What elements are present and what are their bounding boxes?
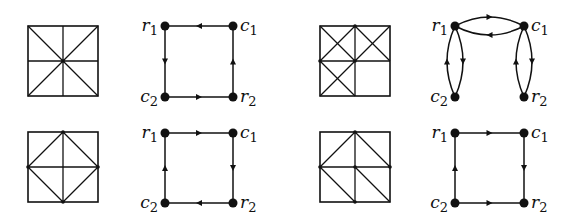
- vertex-dot: [353, 165, 357, 169]
- grid-line: [320, 132, 355, 167]
- grid-line: [320, 167, 355, 202]
- arrowhead-icon: [513, 59, 519, 65]
- directed-graph: r1c1c2r2: [430, 14, 549, 109]
- node-r1: [451, 22, 460, 31]
- grid-line: [355, 167, 390, 202]
- node-c2: [451, 199, 460, 208]
- node-label-r2: r2: [531, 192, 547, 215]
- node-label-c1: c1: [531, 15, 549, 38]
- node-r2: [520, 93, 529, 102]
- node-label-r2: r2: [240, 86, 256, 109]
- vertex-dot: [353, 130, 357, 134]
- grid-line: [63, 132, 98, 167]
- arrowhead-icon: [487, 32, 493, 38]
- arrowhead-icon: [162, 59, 168, 65]
- panel-top-left: r1c1c2r2: [28, 15, 258, 109]
- directed-graph: r1c1c2r2: [140, 122, 258, 215]
- node-c2: [161, 93, 170, 102]
- node-label-r1: r1: [142, 122, 158, 145]
- panel-bottom-left: r1c1c2r2: [26, 122, 258, 215]
- arrowhead-icon: [230, 59, 236, 65]
- arrowhead-icon: [196, 130, 202, 136]
- node-c1: [520, 129, 529, 138]
- arrowhead-icon: [460, 59, 466, 65]
- arrowhead-icon: [452, 165, 458, 171]
- node-label-c2: c2: [430, 86, 448, 109]
- vertex-dot: [353, 24, 357, 28]
- node-r2: [229, 93, 238, 102]
- diagram-figure: r1c1c2r2r1c1c2r2r1c1c2r2r1c1c2r2: [0, 0, 572, 222]
- triangulated-square: [318, 130, 392, 204]
- vertex-dot: [61, 200, 65, 204]
- node-label-r1: r1: [432, 122, 448, 145]
- grid-line: [28, 132, 63, 167]
- arrowhead-icon: [162, 165, 168, 171]
- node-c1: [520, 22, 529, 31]
- node-r1: [161, 129, 170, 138]
- grid-line: [355, 132, 390, 167]
- arrowhead-icon: [487, 130, 493, 136]
- node-label-c1: c1: [240, 122, 258, 145]
- triangulated-square: [318, 24, 390, 96]
- vertex-dot: [26, 165, 30, 169]
- node-label-r2: r2: [240, 192, 256, 215]
- triangulated-square: [28, 26, 98, 96]
- node-c2: [451, 93, 460, 102]
- node-label-r2: r2: [531, 86, 547, 109]
- node-label-c1: c1: [240, 15, 258, 38]
- arrowhead-icon: [529, 59, 535, 65]
- arrowhead-icon: [487, 200, 493, 206]
- panel-bottom-right: r1c1c2r2: [318, 122, 549, 215]
- node-r1: [451, 129, 460, 138]
- node-c1: [229, 129, 238, 138]
- node-c1: [229, 22, 238, 31]
- arrowhead-icon: [230, 165, 236, 171]
- figure-canvas: r1c1c2r2r1c1c2r2r1c1c2r2r1c1c2r2: [0, 0, 572, 222]
- arrowhead-icon: [196, 94, 202, 100]
- vertex-dot: [353, 59, 357, 63]
- node-r2: [520, 199, 529, 208]
- node-label-r1: r1: [142, 15, 158, 38]
- arrowhead-icon: [196, 200, 202, 206]
- directed-graph: r1c1c2r2: [430, 122, 549, 215]
- vertex-dot: [318, 59, 322, 63]
- arrowhead-icon: [196, 23, 202, 29]
- arrowhead-icon: [487, 14, 493, 20]
- vertex-dot: [388, 165, 392, 169]
- arrowhead-icon: [444, 59, 450, 65]
- node-label-c2: c2: [140, 192, 158, 215]
- arrowhead-icon: [521, 165, 527, 171]
- triangulated-square: [26, 130, 100, 204]
- node-label-c1: c1: [531, 122, 549, 145]
- node-label-c2: c2: [430, 192, 448, 215]
- node-label-c2: c2: [140, 86, 158, 109]
- panel-top-right: r1c1c2r2: [318, 14, 549, 109]
- grid-line: [63, 167, 98, 202]
- vertex-dot: [61, 130, 65, 134]
- vertex-dot: [61, 59, 65, 63]
- node-label-r1: r1: [432, 15, 448, 38]
- directed-graph: r1c1c2r2: [140, 15, 258, 109]
- node-r2: [229, 199, 238, 208]
- node-r1: [161, 22, 170, 31]
- vertex-dot: [96, 165, 100, 169]
- vertex-dot: [318, 165, 322, 169]
- grid-line: [28, 167, 63, 202]
- vertex-dot: [353, 200, 357, 204]
- node-c2: [161, 199, 170, 208]
